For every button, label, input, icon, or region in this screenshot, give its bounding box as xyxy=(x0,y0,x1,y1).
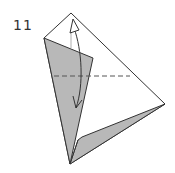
origami-diagram xyxy=(0,0,175,173)
